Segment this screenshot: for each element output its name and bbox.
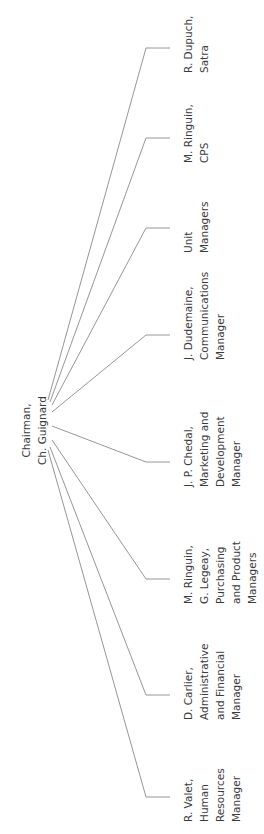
node-line: Manager (228, 768, 244, 822)
connector-line (50, 447, 170, 695)
node-1: M. Ringuin,CPS (180, 104, 212, 163)
connector-line (48, 450, 170, 797)
connector-line (48, 48, 170, 400)
node-5: M. Ringuin,G. Legeay,Purchasingand Produ… (180, 541, 260, 604)
org-chart: Chairman, Ch. Guignard R. Dupuch,SatraM.… (0, 0, 264, 834)
node-3: J. Dudemaine,CommunicationsManager (180, 272, 228, 360)
node-line: Managers (196, 202, 212, 254)
node-line: Managers (244, 541, 260, 604)
node-line: Satra (196, 16, 212, 73)
node-7: R. Valet,HumanResourcesManager (180, 768, 244, 822)
connector-line (52, 228, 170, 405)
node-line: Manager (228, 644, 244, 720)
node-line: J. P. Chedal, (180, 412, 196, 487)
node-line: Unit (180, 202, 196, 254)
node-line: Administrative (196, 644, 212, 720)
node-line: M. Ringuin, (180, 541, 196, 604)
node-chairman: Chairman, Ch. Guignard (18, 396, 50, 465)
connector-line (52, 440, 170, 579)
node-line: Communications (196, 272, 212, 360)
node-line: Purchasing (212, 541, 228, 604)
connector-line (52, 426, 170, 462)
node-line: Development (212, 412, 228, 487)
node-line: J. Dudemaine, (180, 272, 196, 360)
node-line: R. Valet, (180, 768, 196, 822)
node-line: Ch. Guignard (34, 396, 50, 465)
node-line: Manager (228, 412, 244, 487)
node-line: Chairman, (18, 396, 34, 465)
node-line: D. Carlier, (180, 644, 196, 720)
node-line: Manager (212, 272, 228, 360)
node-2: UnitManagers (180, 202, 212, 254)
node-line: and Financial (212, 644, 228, 720)
node-6: D. Carlier,Administrativeand FinancialMa… (180, 644, 244, 720)
node-line: Resources (212, 768, 228, 822)
node-line: R. Dupuch, (180, 16, 196, 73)
node-0: R. Dupuch,Satra (180, 16, 212, 73)
node-line: and Product (228, 541, 244, 604)
node-line: G. Legeay, (196, 541, 212, 604)
node-line: CPS (196, 104, 212, 163)
node-line: Human (196, 768, 212, 822)
node-line: Marketing and (196, 412, 212, 487)
node-4: J. P. Chedal,Marketing andDevelopmentMan… (180, 412, 244, 487)
node-line: M. Ringuin, (180, 104, 196, 163)
